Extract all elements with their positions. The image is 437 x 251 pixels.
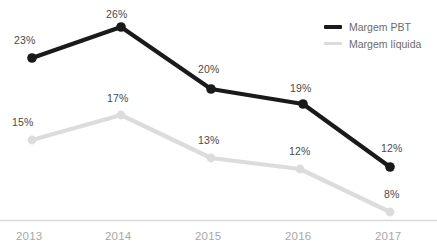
data-point-liquida-2013 <box>28 136 37 145</box>
value-label-pbt-2016: 19% <box>290 82 311 94</box>
value-label-liquida-2014: 17% <box>107 92 128 104</box>
legend-item-margem-pbt[interactable]: Margem PBT <box>324 18 430 35</box>
value-label-pbt-2015: 20% <box>198 63 219 75</box>
value-label-pbt-2013: 23% <box>14 34 35 46</box>
data-point-liquida-2017 <box>386 208 395 217</box>
data-point-liquida-2015 <box>207 154 216 163</box>
value-label-liquida-2015: 13% <box>198 134 219 146</box>
data-point-pbt-2014 <box>116 22 126 32</box>
line-chart: 23% 26% 20% 19% 12% 15% 17% 13% 12% 8% 2… <box>0 0 437 251</box>
value-label-pbt-2014: 26% <box>106 8 127 20</box>
data-point-pbt-2017 <box>385 162 395 172</box>
value-label-pbt-2017: 12% <box>381 142 402 154</box>
legend-item-margem-liquida[interactable]: Margem líquida <box>324 35 430 52</box>
chart-legend: Margem PBT Margem líquida <box>318 12 434 58</box>
x-axis-tick-2013: 2013 <box>16 230 42 242</box>
data-point-liquida-2016 <box>296 165 305 174</box>
data-point-liquida-2014 <box>117 111 126 120</box>
data-point-pbt-2016 <box>298 99 308 109</box>
data-point-pbt-2015 <box>206 84 216 94</box>
legend-swatch-line-icon-pbt <box>324 25 342 29</box>
value-label-liquida-2016: 12% <box>289 145 310 157</box>
x-axis-tick-2015: 2015 <box>195 230 221 242</box>
value-label-liquida-2017: 8% <box>384 188 399 200</box>
legend-label-margem-pbt: Margem PBT <box>349 21 411 33</box>
legend-swatch-line-icon-liquida <box>324 42 342 45</box>
x-axis-tick-2016: 2016 <box>285 230 311 242</box>
x-axis-tick-2017: 2017 <box>375 230 401 242</box>
value-label-liquida-2013: 15% <box>12 116 33 128</box>
data-point-pbt-2013 <box>27 53 37 63</box>
legend-label-margem-liquida: Margem líquida <box>349 38 421 50</box>
x-axis-tick-2014: 2014 <box>105 230 131 242</box>
